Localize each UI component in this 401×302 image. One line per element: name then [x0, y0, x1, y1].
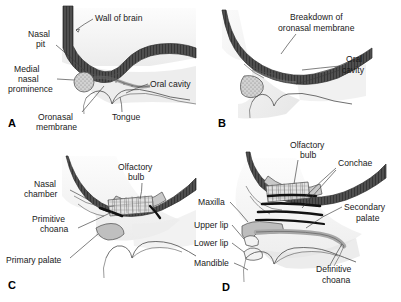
label-conchae: Conchae [338, 158, 373, 168]
label-oral-cavity-b-line2: cavity [342, 65, 365, 75]
upper-lip-shape [244, 236, 259, 247]
label-oronasal-membrane-line2: membrane [36, 122, 77, 132]
label-olfactory-bulb-d-line1: Olfactory [290, 140, 325, 150]
label-olfactory-bulb-c-line2: bulb [128, 172, 144, 182]
label-oronasal-membrane-line1: Oronasal [38, 112, 73, 122]
label-primitive-choana-line2: choana [40, 224, 68, 234]
label-nasal-chamber-line1: Nasal [34, 179, 56, 189]
panel-letter-c: C [8, 279, 16, 291]
label-breakdown-line2: oronasal membrane [278, 23, 355, 33]
label-oral-cavity-b-line1: Oral [346, 54, 362, 64]
label-mandible: Mandible [194, 258, 229, 268]
label-definitive-choana-line2: choana [322, 275, 350, 285]
label-medial-nasal-prominence-line1: Medial [14, 64, 39, 74]
label-wall-of-brain: Wall of brain [95, 13, 143, 23]
panel-letter-d: D [222, 281, 230, 293]
concha-stroke [268, 195, 316, 196]
label-olfactory-bulb-c-line1: Olfactory [118, 162, 153, 172]
panel-letter-b: B [218, 117, 226, 129]
label-oral-cavity: Oral cavity [150, 79, 191, 89]
lower-lip-shape [244, 248, 263, 260]
label-secondary-palate-line1: Secondary [344, 202, 386, 212]
label-definitive-choana-line1: Definitive [316, 264, 352, 274]
label-primitive-choana-line1: Primitive [32, 214, 65, 224]
label-upper-lip: Upper lip [194, 220, 229, 230]
label-maxilla: Maxilla [198, 197, 225, 207]
label-nasal-pit-line1: Nasal [28, 29, 50, 39]
label-nasal-pit-line2: pit [36, 39, 46, 49]
anatomical-figure: Wall of brain Nasal pit Medial nasal pro… [0, 0, 401, 302]
label-primary-palate: Primary palate [6, 255, 62, 265]
label-breakdown-line1: Breakdown of [290, 12, 343, 22]
label-medial-nasal-prominence-line2: nasal [18, 74, 39, 84]
label-lower-lip: Lower lip [194, 238, 229, 248]
label-medial-nasal-prominence-line3: prominence [8, 84, 53, 94]
label-nasal-chamber-line2: chamber [24, 189, 58, 199]
label-secondary-palate-line2: palate [356, 213, 380, 223]
label-olfactory-bulb-d-line2: bulb [300, 150, 316, 160]
label-tongue: Tongue [112, 112, 140, 122]
panel-letter-a: A [8, 117, 16, 129]
